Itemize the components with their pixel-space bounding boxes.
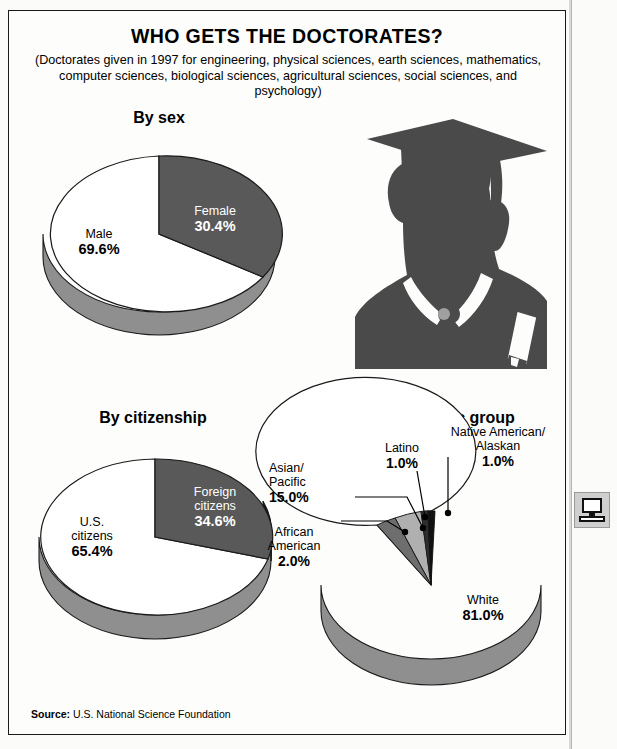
pie-race-label-native-american: Native American/ Alaskan 1.0% (437, 425, 559, 468)
label-text: White (467, 593, 499, 607)
leader-dot-native (445, 510, 451, 516)
pie-chart-by-sex: Female 30.4% Male 69.6% (31, 139, 287, 329)
pie-chart-by-citizenship: Foreign citizens 34.6% U.S. citizens 65.… (27, 439, 283, 639)
label-text: Male (85, 227, 112, 241)
label-text-line2: American (268, 539, 321, 553)
label-value: 69.6% (59, 242, 139, 256)
leader-dot-asian (420, 525, 426, 531)
label-value: 1.0% (437, 454, 559, 468)
leader-dot-african (402, 529, 408, 535)
label-text-line1: Native American/ (451, 425, 545, 439)
pie-sex-label-male: Male 69.6% (59, 227, 139, 256)
label-text-line1: African (275, 525, 314, 539)
pie-race-label-white: White 81.0% (443, 593, 523, 622)
leader-dot-latino (422, 514, 428, 520)
section-title-by-citizenship: By citizenship (23, 409, 283, 427)
label-text-line1: Asian/ (269, 461, 304, 475)
graduate-silhouette-illustration (341, 111, 561, 380)
label-text: Female (194, 204, 236, 218)
label-text-line2: Pacific (269, 475, 306, 489)
pie-race-label-asian: Asian/ Pacific 15.0% (269, 461, 349, 504)
pie-citizenship-label-foreign: Foreign citizens 34.6% (169, 485, 261, 528)
label-text: Latino (385, 441, 419, 455)
source-text: U.S. National Science Foundation (73, 708, 231, 720)
page-edge-line (571, 0, 572, 749)
label-value: 81.0% (443, 608, 523, 622)
label-value: 2.0% (251, 554, 337, 568)
label-text-line2: citizens (194, 499, 236, 513)
pie-chart-by-race: White 81.0% Asian/ Pacific 15.0% African… (295, 435, 567, 685)
source-label: Source: (31, 708, 70, 720)
label-value: 15.0% (269, 490, 349, 504)
label-value: 30.4% (175, 219, 255, 233)
label-text-line1: Foreign (194, 485, 236, 499)
source-line: Source: U.S. National Science Foundation (31, 708, 231, 720)
label-text-line2: Alaskan (476, 439, 520, 453)
page-subtitle: (Doctorates given in 1997 for engineerin… (31, 53, 545, 100)
page-title: WHO GETS THE DOCTORATES? (9, 25, 565, 48)
section-title-by-sex: By sex (29, 109, 289, 127)
label-value: 34.6% (169, 514, 261, 528)
pie-race-label-latino: Latino 1.0% (367, 441, 437, 470)
desktop-computer-icon[interactable] (574, 492, 610, 528)
pie-citizenship-label-us: U.S. citizens 65.4% (49, 515, 135, 558)
label-value: 1.0% (367, 456, 437, 470)
pie-race-label-african-american: African American 2.0% (251, 525, 337, 568)
pie-sex-label-female: Female 30.4% (175, 204, 255, 233)
label-text-line1: U.S. (80, 515, 104, 529)
infographic-frame: WHO GETS THE DOCTORATES? (Doctorates giv… (8, 10, 566, 735)
label-value: 65.4% (49, 544, 135, 558)
label-text-line2: citizens (71, 529, 113, 543)
